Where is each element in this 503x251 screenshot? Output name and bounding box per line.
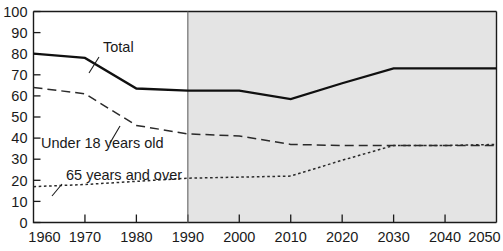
x-tick-label: 1990 — [172, 229, 204, 245]
x-tick-label: 2050 — [468, 229, 500, 245]
series-annotation-label: Under 18 years old — [41, 135, 164, 151]
chart-canvas: 0102030405060708090100 19601970198019902… — [0, 0, 503, 251]
x-tick-label: 2000 — [223, 229, 255, 245]
projection-region-fill — [188, 12, 497, 223]
y-tick-label: 20 — [11, 173, 27, 189]
x-axis-tick-labels: 1960197019801990200020102020203020402050 — [28, 229, 500, 245]
series-annotation-label: Total — [103, 39, 134, 55]
y-tick-label: 30 — [11, 151, 27, 167]
x-tick-label: 2030 — [377, 229, 409, 245]
y-tick-label: 0 — [19, 215, 27, 231]
y-tick-label: 10 — [11, 194, 27, 210]
y-tick-label: 70 — [11, 67, 27, 83]
x-tick-label: 1970 — [69, 229, 101, 245]
y-tick-label: 100 — [3, 4, 27, 20]
y-tick-label: 60 — [11, 88, 27, 104]
y-tick-label: 90 — [11, 25, 27, 41]
series-inline-annotations: TotalUnder 18 years old65 years and over — [41, 39, 182, 196]
series-annotation-label: 65 years and over — [66, 167, 182, 183]
x-tick-label: 2040 — [429, 229, 461, 245]
y-axis-tick-labels: 0102030405060708090100 — [3, 4, 27, 231]
x-tick-label: 1980 — [120, 229, 152, 245]
y-axis-tick-marks — [34, 12, 41, 223]
y-tick-label: 80 — [11, 46, 27, 62]
y-tick-label: 40 — [11, 130, 27, 146]
x-tick-label: 2010 — [275, 229, 307, 245]
projection-shaded-region — [188, 12, 497, 223]
x-tick-label: 2020 — [326, 229, 358, 245]
annotation-leader-line — [52, 184, 62, 196]
y-tick-label: 50 — [11, 109, 27, 125]
dependency-ratio-line-chart: 0102030405060708090100 19601970198019902… — [0, 0, 503, 251]
x-tick-label: 1960 — [28, 229, 60, 245]
